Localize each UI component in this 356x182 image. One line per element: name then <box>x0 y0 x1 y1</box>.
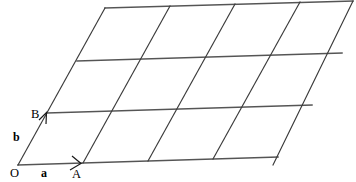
vector-b-arrow-group <box>39 113 47 125</box>
lattice-column-line-0 <box>18 8 105 165</box>
vector-b-label: b <box>13 131 20 143</box>
lattice-diagram <box>0 0 356 182</box>
lattice-column-line-1 <box>83 6 170 163</box>
point-b-label: B <box>31 108 39 121</box>
vector-a-label: a <box>41 167 47 179</box>
lattice-columns-group <box>18 1 353 165</box>
lattice-row-line-2 <box>77 53 342 61</box>
origin-label: O <box>10 167 19 180</box>
point-a-label: A <box>72 168 81 181</box>
lattice-row-line-1 <box>47 105 312 113</box>
lattice-rows-group <box>18 1 353 165</box>
lattice-column-line-2 <box>148 4 235 161</box>
lattice-row-line-3 <box>105 1 353 8</box>
lattice-column-line-4 <box>273 1 353 165</box>
lattice-figure: O A B a b <box>0 0 356 182</box>
vector-b-arrowhead-icon <box>39 113 47 125</box>
